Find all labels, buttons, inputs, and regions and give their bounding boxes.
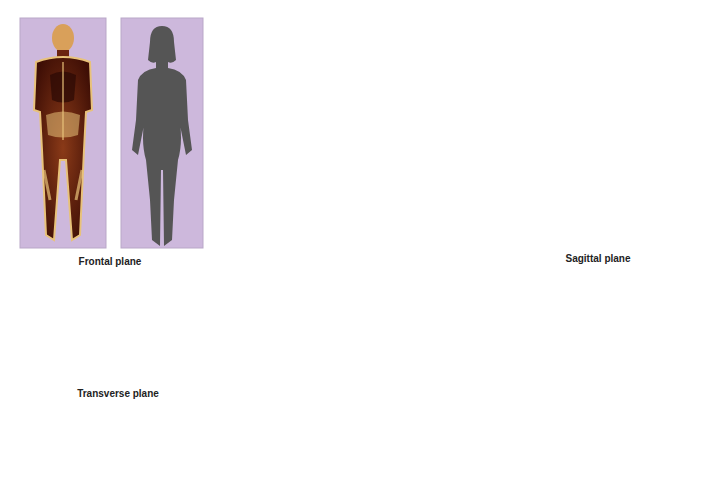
frontal-section-panel — [20, 18, 106, 248]
body-planes-diagram — [0, 0, 703, 496]
transverse-plane-label: Transverse plane — [68, 388, 168, 399]
frontal-silhouette-panel — [121, 18, 203, 248]
sagittal-plane-label: Sagittal plane — [548, 253, 648, 264]
frontal-plane-label: Frontal plane — [60, 256, 160, 267]
